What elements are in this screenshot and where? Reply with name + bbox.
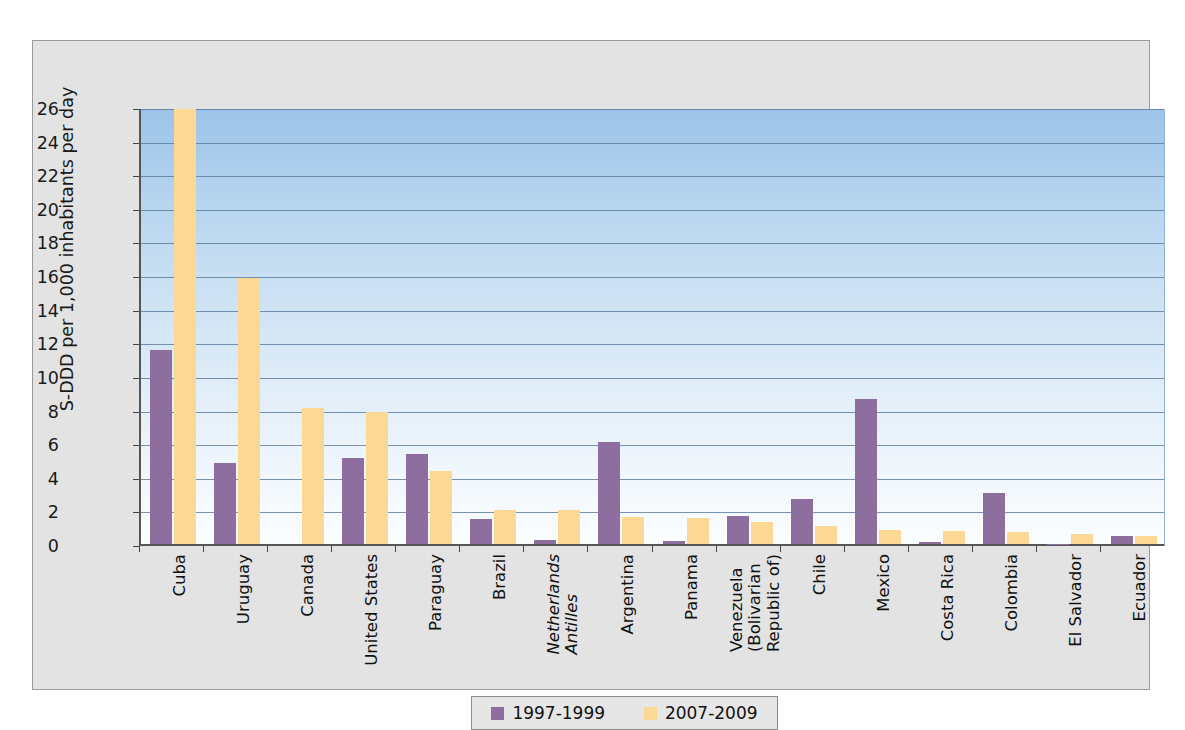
- y-tick-label: 2: [0, 504, 59, 522]
- y-tick-label: 10: [0, 370, 59, 388]
- chart-frame: S-DDD per 1,000 inhabitants per day 0246…: [32, 40, 1150, 690]
- bar: [214, 463, 236, 544]
- y-tick-label: 8: [0, 404, 59, 422]
- bar-group: [846, 109, 910, 544]
- y-tick-mark: [133, 176, 139, 177]
- bar: [879, 530, 901, 544]
- bar-group: [397, 109, 461, 544]
- plot-area: [139, 109, 1164, 546]
- legend-label-1997-1999: 1997-1999: [512, 703, 605, 723]
- bar-group: [782, 109, 846, 544]
- bar: [534, 540, 556, 544]
- y-tick-mark: [133, 277, 139, 278]
- x-tick-mark: [139, 546, 140, 552]
- chart-legend: 1997-1999 2007-2009: [471, 696, 778, 730]
- bar: [815, 526, 837, 544]
- bar-group: [718, 109, 782, 544]
- x-tick-mark: [587, 546, 588, 552]
- bar-group: [333, 109, 397, 544]
- x-tick-label: United States: [363, 554, 381, 666]
- y-tick-mark: [133, 311, 139, 312]
- x-tick-mark: [459, 546, 460, 552]
- x-tick-mark: [267, 546, 268, 552]
- bar-group: [1102, 109, 1166, 544]
- bar: [663, 541, 685, 544]
- bar: [406, 454, 428, 544]
- y-tick-label: 26: [0, 101, 59, 119]
- bar: [751, 522, 773, 544]
- x-tick-label: Uruguay: [235, 554, 253, 624]
- bar: [727, 516, 749, 544]
- bar-group: [974, 109, 1038, 544]
- y-tick-label: 24: [0, 135, 59, 153]
- x-tick-mark: [716, 546, 717, 552]
- bar-series-container: [141, 109, 1164, 544]
- x-tick-mark: [908, 546, 909, 552]
- bar-group: [205, 109, 269, 544]
- bar-group: [654, 109, 718, 544]
- x-tick-label: NetherlandsAntilles: [545, 554, 582, 655]
- y-tick-mark: [133, 512, 139, 513]
- x-tick-mark: [523, 546, 524, 552]
- x-tick-label: El Salvador: [1067, 554, 1085, 647]
- x-tick-mark: [844, 546, 845, 552]
- bar: [983, 493, 1005, 544]
- x-tick-label: Costa Rica: [939, 554, 957, 641]
- x-tick-mark: [1100, 546, 1101, 552]
- y-axis-title: S-DDD per 1,000 inhabitants per day: [57, 29, 77, 469]
- legend-swatch-icon-1997-1999: [491, 707, 504, 720]
- bar: [430, 471, 452, 544]
- bar: [791, 499, 813, 544]
- y-tick-label: 14: [0, 303, 59, 321]
- bar: [470, 519, 492, 544]
- bar: [494, 510, 516, 544]
- bar-group: [910, 109, 974, 544]
- bar: [1135, 536, 1157, 544]
- y-tick-mark: [133, 412, 139, 413]
- x-tick-label: Canada: [299, 554, 317, 617]
- x-tick-mark: [780, 546, 781, 552]
- y-tick-mark: [133, 143, 139, 144]
- legend-item-1997-1999[interactable]: 1997-1999: [491, 703, 605, 723]
- y-tick-mark: [133, 378, 139, 379]
- y-tick-label: 18: [0, 235, 59, 253]
- y-tick-label: 0: [0, 538, 59, 556]
- bar: [687, 518, 709, 544]
- bar: [622, 517, 644, 544]
- y-tick-label: 6: [0, 437, 59, 455]
- bar-group: [269, 109, 333, 544]
- y-tick-mark: [133, 243, 139, 244]
- x-tick-mark: [972, 546, 973, 552]
- y-tick-mark: [133, 344, 139, 345]
- x-tick-label: Panama: [683, 554, 701, 620]
- plot-right-edge: [1164, 109, 1165, 546]
- bar: [302, 408, 324, 544]
- bar-group: [141, 109, 205, 544]
- y-tick-label: 20: [0, 202, 59, 220]
- bar-group: [1038, 109, 1102, 544]
- legend-label-2007-2009: 2007-2009: [665, 703, 758, 723]
- x-tick-label: Ecuador: [1131, 554, 1149, 621]
- x-tick-label: Argentina: [619, 554, 637, 635]
- bar: [598, 442, 620, 544]
- bar: [150, 350, 172, 544]
- y-tick-label: 12: [0, 336, 59, 354]
- y-tick-label: 4: [0, 471, 59, 489]
- bar-group: [525, 109, 589, 544]
- legend-swatch-icon-2007-2009: [644, 707, 657, 720]
- legend-item-2007-2009[interactable]: 2007-2009: [644, 703, 758, 723]
- x-tick-label: Brazil: [491, 554, 509, 600]
- bar: [1047, 544, 1069, 545]
- x-tick-label: Chile: [811, 554, 829, 595]
- y-tick-mark: [133, 445, 139, 446]
- bar: [366, 412, 388, 544]
- bar: [1007, 532, 1029, 544]
- bar: [1071, 534, 1093, 544]
- y-tick-mark: [133, 479, 139, 480]
- y-tick-label: 16: [0, 269, 59, 287]
- bar-group: [461, 109, 525, 544]
- bar: [855, 399, 877, 544]
- bar: [919, 542, 941, 544]
- bar: [558, 510, 580, 544]
- x-tick-mark: [203, 546, 204, 552]
